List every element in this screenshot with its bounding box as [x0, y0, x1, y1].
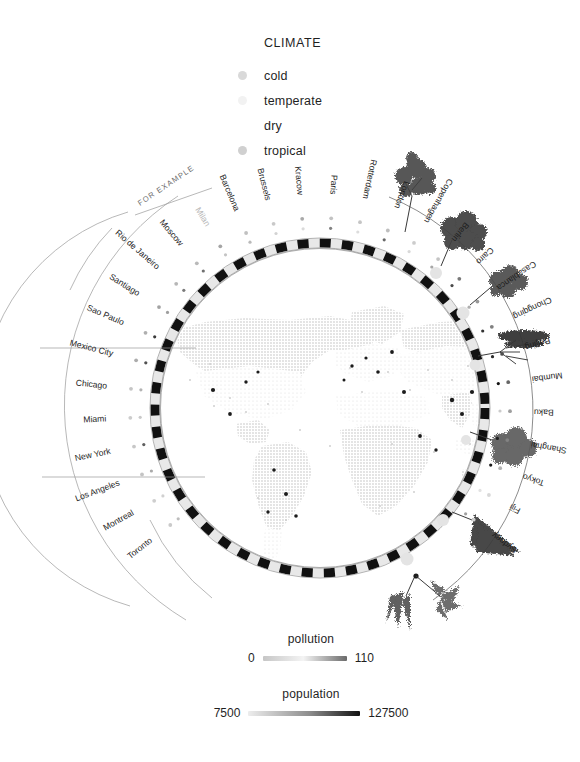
landmass-usa	[196, 366, 306, 420]
landmass-central-america	[236, 420, 270, 444]
city-label[interactable]: Sao Paulo	[85, 302, 126, 327]
city-population-dot	[430, 265, 433, 268]
city-label[interactable]: Chongqing	[511, 295, 553, 322]
population-scale: population 7500 127500	[196, 687, 426, 720]
landmass-africa	[340, 424, 432, 516]
inner-circle-outline	[161, 249, 480, 568]
city-pollution-dot	[498, 466, 502, 470]
city-population-dot	[166, 311, 169, 314]
city-label[interactable]: Moscow	[158, 217, 187, 248]
city-pollution-dot	[174, 282, 178, 286]
city-label[interactable]: Baku	[534, 407, 554, 417]
city-population-dot	[491, 355, 494, 358]
city-pollution-dot	[487, 493, 491, 497]
climate-legend-label: temperate	[264, 94, 322, 108]
city-pollution-dot	[300, 217, 304, 221]
city-label[interactable]: Rotterdam	[361, 159, 379, 200]
city-pollution-dot	[506, 380, 510, 384]
city-pollution-dot	[272, 222, 276, 226]
city-label[interactable]: Milan	[193, 205, 212, 228]
city-label[interactable]: Mumbai	[531, 371, 563, 385]
climate-swatch-temperate-icon	[238, 96, 247, 105]
for-example-label: FOR EXAMPLE	[136, 163, 196, 207]
climate-swatch-tropical-icon	[238, 146, 247, 155]
climate-legend-label: dry	[264, 119, 282, 133]
city-pollution-dot	[134, 358, 138, 362]
city-pollution-dot	[505, 438, 509, 442]
city-population-dot	[356, 230, 359, 233]
pollution-scale-min: 0	[248, 651, 255, 665]
city-label[interactable]: Paris	[328, 175, 339, 195]
city-population-dot	[274, 232, 277, 235]
city-pollution-dot	[358, 220, 362, 224]
city-pollution-dot	[168, 523, 172, 527]
city-label[interactable]: Mexico City	[69, 337, 115, 358]
city-label[interactable]: Brussels	[256, 167, 274, 201]
city-population-dot	[497, 382, 500, 385]
climate-legend: CLIMATE coldtemperatedrytropical	[264, 36, 322, 163]
city-pollution-dot	[195, 261, 199, 265]
city-label[interactable]: Shanghai	[530, 440, 568, 456]
climate-legend-rows: coldtemperatedrytropical	[264, 63, 322, 163]
label-arc-inner	[0, 212, 130, 606]
climate-legend-label: tropical	[264, 144, 306, 158]
climate-legend-item-tropical[interactable]: tropical	[264, 138, 322, 163]
label-arc-outer	[64, 196, 186, 620]
city-population-dot	[329, 227, 332, 230]
landmass-south-america	[252, 442, 312, 532]
city-label[interactable]: Barcelona	[218, 173, 242, 213]
city-pollution-dot	[436, 257, 440, 261]
city-label[interactable]: Los Angeles	[74, 478, 121, 504]
infographic-canvas: FOR EXAMPLE TorontoMontrealLos AngelesNe…	[0, 0, 580, 762]
city-label[interactable]: Toronto	[125, 535, 154, 561]
city-population-dot	[489, 464, 492, 467]
city-pollution-dot	[472, 518, 476, 522]
ring-inner-outline	[160, 248, 480, 568]
pollution-scale: pollution 0 110	[216, 632, 406, 665]
city-pollution-dot	[508, 409, 512, 413]
climate-legend-item-cold[interactable]: cold	[264, 63, 322, 88]
group-divider-arcs	[0, 196, 212, 620]
city-label-layer: TorontoMontrealLos AngelesNew YorkMiamiC…	[69, 159, 568, 561]
city-population-dot	[182, 289, 185, 292]
climate-legend-item-dry[interactable]: dry	[264, 113, 322, 138]
climate-legend-title: CLIMATE	[264, 36, 322, 50]
city-population-dot	[481, 329, 484, 332]
city-pollution-dot	[152, 499, 156, 503]
city-pollution-dot	[132, 445, 136, 449]
climate-swatch-dry-icon	[238, 121, 247, 130]
city-label[interactable]: Montreal	[101, 507, 135, 532]
city-label[interactable]: Chicago	[75, 378, 108, 391]
landmass-africa-north	[336, 390, 430, 426]
city-label[interactable]: New York	[74, 446, 112, 463]
city-population-dot	[202, 269, 205, 272]
city-population-dot	[498, 409, 501, 412]
city-pollution-dot	[476, 300, 480, 304]
divider-americas-top	[70, 228, 112, 290]
city-pollution-dot	[144, 331, 148, 335]
pollution-gradient-bar	[263, 656, 347, 661]
population-scale-min: 7500	[214, 706, 241, 720]
city-label[interactable]: Miami	[83, 413, 106, 424]
population-gradient-bar	[248, 711, 360, 716]
landmass-india	[442, 392, 474, 428]
plant-icon-7	[386, 573, 419, 630]
city-population-dot	[139, 416, 142, 419]
climate-legend-item-temperate[interactable]: temperate	[264, 88, 322, 113]
city-label[interactable]: Kracow	[293, 166, 306, 196]
city-population-dot	[139, 388, 142, 391]
city-pollution-dot	[500, 352, 504, 356]
climate-swatch-cold-icon	[238, 71, 247, 80]
city-population-dot	[142, 443, 145, 446]
city-label[interactable]: Fiji	[508, 502, 522, 516]
city-population-dot	[408, 250, 411, 253]
landmass-southeast-asia	[470, 400, 512, 434]
city-population-dot	[177, 517, 180, 520]
climate-legend-label: cold	[264, 69, 288, 83]
city-population-dot	[248, 241, 251, 244]
city-label[interactable]: Tokyo	[521, 472, 546, 489]
city-population-dot	[383, 238, 386, 241]
city-label[interactable]: Santiago	[108, 272, 142, 299]
city-label[interactable]: Rio de Janeiro	[113, 228, 162, 272]
city-pollution-dot	[490, 325, 494, 329]
